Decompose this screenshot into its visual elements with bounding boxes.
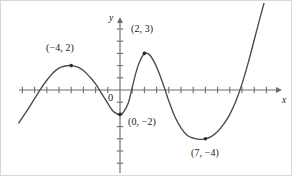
graph-figure: (−4, 2) (2, 3) (0, −2) (7, −4) 0 x y [0, 0, 292, 176]
x-axis-label: x [282, 96, 286, 106]
point-label-2-3: (2, 3) [131, 24, 153, 34]
point-label-7-minus4: (7, −4) [191, 148, 219, 158]
point-label-0-minus2: (0, −2) [128, 117, 156, 127]
point-label-minus4-2: (−4, 2) [46, 43, 74, 53]
origin-label: 0 [108, 93, 113, 104]
y-axis-label: y [109, 14, 113, 24]
axes-group [19, 17, 282, 173]
